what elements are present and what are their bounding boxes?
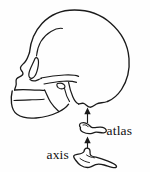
mastoid-process [69, 83, 79, 105]
orbit [29, 58, 39, 79]
frontal-bone [15, 53, 30, 91]
arrow-atlas-to-skull [84, 108, 90, 124]
occipital-region [79, 102, 108, 108]
styloid-process [65, 89, 70, 102]
axis-label: axis [46, 147, 69, 162]
skull-diagram-svg: atlas axis [0, 0, 150, 172]
zygomatic-arch [41, 75, 79, 78]
skull [11, 10, 129, 118]
cranial-vault-outline [30, 10, 130, 102]
tooth-row [14, 99, 44, 100]
axis-vertebra-c2 [74, 148, 117, 167]
mandible [11, 91, 68, 118]
mandibular-fossa [57, 83, 65, 89]
maxilla [15, 90, 45, 91]
atlas-vertebra-c1 [80, 123, 107, 134]
temporal-line [37, 28, 63, 56]
atlas-label: atlas [107, 123, 133, 138]
anatomical-figure: atlas axis [0, 0, 150, 172]
mandibular-ramus [45, 90, 59, 112]
